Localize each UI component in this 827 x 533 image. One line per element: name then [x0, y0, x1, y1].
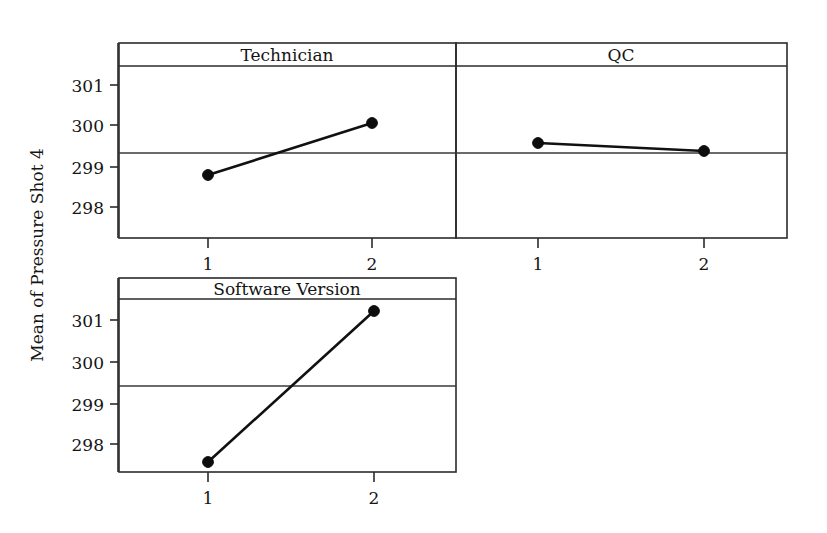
- series-line-qc: [538, 143, 704, 151]
- data-point-software-version-1: [203, 457, 214, 468]
- top-row-axis: 301 300 299 298: [72, 43, 118, 238]
- data-point-technician-2: [367, 118, 378, 129]
- ytick-label-299-bottom: 299: [72, 395, 104, 415]
- y-axis-label: Mean of Pressure Shot 4: [27, 148, 47, 361]
- ytick-label-299-top: 299: [72, 158, 104, 178]
- ytick-label-298-top: 298: [72, 198, 104, 218]
- chart-canvas: Mean of Pressure Shot 4 301 300 299 298 …: [0, 0, 827, 533]
- data-point-software-version-2: [369, 306, 380, 317]
- data-point-technician-1: [203, 170, 214, 181]
- ytick-label-300-bottom: 300: [72, 353, 104, 373]
- ytick-label-298-bottom: 298: [72, 435, 104, 455]
- series-line-technician: [208, 123, 372, 175]
- xtick-label-technician-1: 1: [203, 254, 214, 274]
- panel-software-version: Software Version 1 2: [119, 278, 456, 508]
- main-effects-plot: Mean of Pressure Shot 4 301 300 299 298 …: [0, 0, 827, 533]
- panel-technician: Technician 1 2: [119, 43, 456, 274]
- ytick-label-301-top: 301: [72, 76, 104, 96]
- ytick-label-301-bottom: 301: [72, 311, 104, 331]
- panel-title-technician: Technician: [241, 45, 334, 65]
- panel-title-qc: QC: [608, 45, 635, 65]
- panel-qc: QC 1 2: [456, 43, 787, 274]
- data-point-qc-1: [533, 138, 544, 149]
- data-point-qc-2: [699, 146, 710, 157]
- xtick-label-software-version-1: 1: [203, 488, 214, 508]
- xtick-label-qc-2: 2: [699, 254, 710, 274]
- panel-title-software-version: Software Version: [213, 279, 361, 299]
- xtick-label-qc-1: 1: [533, 254, 544, 274]
- bottom-row-axis: 301 300 299 298: [72, 278, 118, 472]
- xtick-label-technician-2: 2: [367, 254, 378, 274]
- xtick-label-software-version-2: 2: [369, 488, 380, 508]
- ytick-label-300-top: 300: [72, 116, 104, 136]
